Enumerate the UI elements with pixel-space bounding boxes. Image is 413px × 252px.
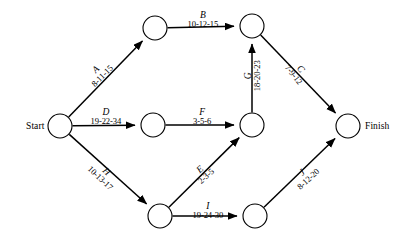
activity-name-G: G xyxy=(242,60,252,91)
node-finish xyxy=(336,114,360,138)
edge-label-D: D19-22-34 xyxy=(91,107,122,127)
start-node-label: Start xyxy=(26,121,44,131)
node-start xyxy=(48,114,72,138)
activity-duration-I: 19-24-30 xyxy=(193,211,224,220)
edge-label-I: I19-24-30 xyxy=(193,201,224,221)
node-n2 xyxy=(240,14,264,38)
node-n3 xyxy=(141,113,165,137)
node-n5 xyxy=(148,204,172,228)
finish-node-label: Finish xyxy=(365,121,389,131)
node-n1 xyxy=(143,16,167,40)
edge-label-B: B10-12-15 xyxy=(188,10,219,30)
edge-label-F: F3-5-6 xyxy=(193,107,211,127)
edge-label-G: G18-20-23 xyxy=(242,60,262,91)
activity-duration-B: 10-12-15 xyxy=(188,20,219,29)
activity-duration-D: 19-22-34 xyxy=(91,117,122,126)
node-n4 xyxy=(240,113,264,137)
node-n6 xyxy=(243,204,267,228)
activity-duration-F: 3-5-6 xyxy=(193,117,211,126)
activity-duration-G: 18-20-23 xyxy=(252,60,261,91)
network-diagram-canvas: A8-11-15B10-12-15C7-9-12D19-22-34E2-3-5F… xyxy=(0,0,413,252)
